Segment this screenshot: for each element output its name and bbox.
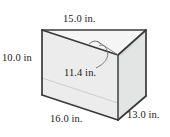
dimension-label-bottom-front: 16.0 in. <box>50 114 83 125</box>
dimension-label-top: 15.0 in. <box>63 14 96 25</box>
triangular-prism-figure: 15.0 in. 10.0 in 11.4 in. 16.0 in. 13.0 … <box>0 0 170 137</box>
dimension-label-bottom-right: 13.0 in. <box>127 110 160 121</box>
dimension-label-left-height: 10.0 in <box>2 53 32 64</box>
dimension-label-altitude: 11.4 in. <box>64 68 96 79</box>
